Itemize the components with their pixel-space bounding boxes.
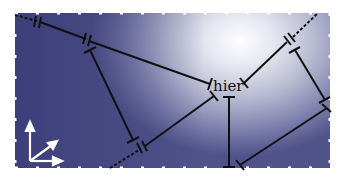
dashed-line-top-right xyxy=(293,13,318,37)
double-tick-icon xyxy=(83,33,91,46)
dotted-border xyxy=(15,13,330,168)
diagram-canvas: hier xyxy=(0,0,345,179)
line-left-v xyxy=(90,50,133,140)
axes-icon xyxy=(26,122,62,165)
hier-label: hier xyxy=(213,77,244,95)
line-to-hier-left xyxy=(89,41,210,84)
tee-end xyxy=(236,160,244,170)
double-tick-icon xyxy=(34,16,41,28)
line-to-hier-bottom xyxy=(145,96,214,146)
dashed-line-top-left xyxy=(15,15,37,21)
line-bottom-right xyxy=(240,108,327,165)
diagram-lines xyxy=(0,0,345,179)
line-top-left xyxy=(40,22,86,39)
line-to-hier-right xyxy=(244,42,287,83)
line-right-v xyxy=(295,50,325,100)
tee-end xyxy=(289,47,300,53)
double-tick-icon xyxy=(137,141,147,153)
dashed-line-bottom xyxy=(110,150,139,168)
